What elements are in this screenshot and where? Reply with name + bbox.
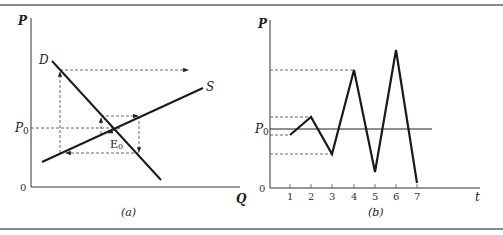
x-ticks	[290, 184, 417, 188]
price-guides	[270, 70, 354, 154]
panel-a: P Q 0 D S P0 E0 (a)	[14, 14, 247, 219]
origin-label: 0	[20, 182, 26, 193]
panel-a-caption: (a)	[121, 206, 136, 219]
tick-label: 5	[372, 191, 378, 202]
y-axis-label: P	[17, 14, 28, 28]
tick-labels: 1 2 3 4 5 6 7	[287, 191, 420, 202]
x-axis-label: t	[475, 190, 480, 204]
tick-label: 4	[351, 191, 357, 202]
tick-label: 7	[414, 191, 420, 202]
price-path	[290, 50, 417, 183]
demand-curve	[52, 61, 161, 180]
figure: P Q 0 D S P0 E0 (a)	[0, 0, 503, 235]
origin-label: 0	[259, 183, 265, 194]
x-axis-label: Q	[236, 192, 247, 206]
tick-label: 6	[393, 191, 399, 202]
supply-label: S	[206, 80, 214, 94]
tick-label: 2	[308, 191, 314, 202]
price-label: P0	[14, 121, 29, 136]
tick-label: 1	[287, 191, 293, 202]
y-axis-label: P	[257, 17, 268, 31]
panel-b: P t 0 P0 1 2 3 4 5 6 7 (b)	[254, 17, 480, 219]
equilibrium-label: E0	[110, 138, 123, 151]
figure-canvas: P Q 0 D S P0 E0 (a)	[0, 0, 503, 235]
tick-label: 3	[329, 191, 335, 202]
price-label: P0	[254, 122, 269, 137]
panel-b-caption: (b)	[368, 206, 384, 219]
demand-label: D	[38, 53, 49, 67]
